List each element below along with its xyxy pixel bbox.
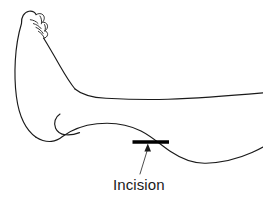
heel-outline bbox=[15, 24, 36, 138]
incision-label: Incision bbox=[113, 176, 165, 193]
sole-outline bbox=[36, 137, 63, 142]
foot-dorsum-outline bbox=[44, 38, 75, 89]
anatomy-figure: Incision bbox=[0, 0, 263, 203]
anatomy-illustration bbox=[0, 0, 263, 203]
incision-arrow bbox=[140, 144, 151, 174]
toes-outline bbox=[21, 11, 47, 38]
lateral-malleolus-mark bbox=[55, 114, 80, 135]
anterior-leg-contour bbox=[75, 89, 263, 99]
